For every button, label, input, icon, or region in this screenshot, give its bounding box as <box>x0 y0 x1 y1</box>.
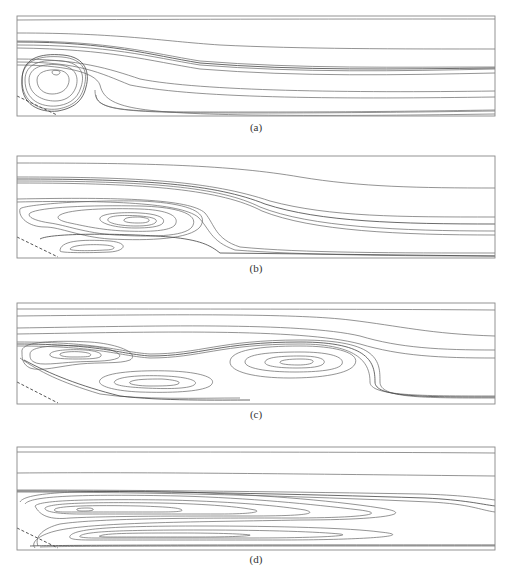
streamline <box>17 344 495 396</box>
streamlines-group <box>17 19 495 115</box>
streamline <box>52 70 60 75</box>
streamline <box>25 61 83 107</box>
streamline <box>17 183 495 235</box>
streamline-panel-b <box>0 155 512 260</box>
streamlines-group <box>17 163 495 256</box>
streamline <box>230 346 356 378</box>
streamline-panel-c <box>0 302 512 407</box>
streamline <box>17 177 495 217</box>
channel-boundary <box>17 16 495 116</box>
streamline <box>114 376 195 389</box>
streamline <box>30 346 120 364</box>
streamline <box>17 59 495 92</box>
streamline <box>50 350 101 359</box>
streamline <box>37 70 69 94</box>
streamline-plot <box>0 446 512 552</box>
panel-caption: (a) <box>0 121 512 133</box>
inlet-dashed-line <box>17 96 57 115</box>
streamline <box>25 495 372 546</box>
streamline <box>77 508 94 511</box>
streamline <box>17 332 495 358</box>
streamline <box>245 352 342 372</box>
streamline <box>29 206 194 236</box>
streamlines-group <box>17 309 495 400</box>
streamline <box>35 500 310 519</box>
streamline <box>130 379 180 386</box>
panel-caption: (d) <box>0 553 512 565</box>
streamline <box>70 245 114 251</box>
streamline-plot <box>0 15 512 118</box>
streamline <box>99 533 250 537</box>
streamline-plot <box>0 302 512 407</box>
streamline <box>17 33 495 49</box>
panel-caption: (c) <box>0 408 512 420</box>
streamline <box>60 352 91 357</box>
inlet-dashed-line <box>17 382 58 403</box>
streamline <box>17 19 495 20</box>
streamlines-group <box>17 452 495 548</box>
streamline <box>17 48 495 75</box>
streamline <box>58 209 176 232</box>
streamline-panel-d <box>0 446 512 552</box>
streamline <box>99 371 212 393</box>
streamline <box>17 492 495 512</box>
streamline-panel-a <box>0 15 512 118</box>
streamline <box>17 452 495 453</box>
streamline <box>17 309 495 310</box>
streamline-bundle <box>17 491 495 506</box>
channel-boundary <box>17 156 495 258</box>
streamline <box>54 506 182 512</box>
streamline <box>17 473 495 476</box>
inlet-dashed-line <box>17 237 58 257</box>
streamline-plot <box>0 155 512 260</box>
channel-boundary <box>17 447 495 550</box>
streamline <box>124 217 149 223</box>
streamline <box>265 356 324 368</box>
streamline <box>20 358 240 398</box>
streamline <box>95 90 495 113</box>
panel-caption: (b) <box>0 262 512 274</box>
streamline <box>280 359 313 365</box>
